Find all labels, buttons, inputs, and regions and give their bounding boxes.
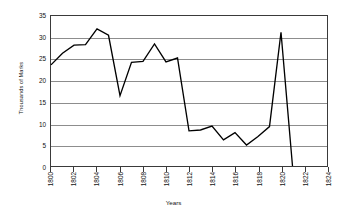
x-tick-label: 1818 <box>255 172 262 186</box>
x-tick-label: 1822 <box>301 172 308 186</box>
y-axis-title: Thousands of Marks <box>14 0 28 176</box>
y-tick-label: 35 <box>39 12 46 19</box>
line-path <box>51 29 293 166</box>
x-axis-title: Years <box>0 199 347 206</box>
x-tick-label: 1800 <box>47 172 54 186</box>
plot-area <box>50 15 328 167</box>
x-tick-label: 1816 <box>232 172 239 186</box>
y-tick-label: 30 <box>39 33 46 40</box>
x-tick-label: 1808 <box>139 172 146 186</box>
x-tick-label: 1824 <box>325 172 332 186</box>
x-axis-tick-labels: 1800180218041806180818101812181418161818… <box>50 172 328 196</box>
data-series-line <box>51 16 327 166</box>
x-tick-label: 1806 <box>116 172 123 186</box>
x-tick-label: 1810 <box>162 172 169 186</box>
y-axis-tick-labels: 05101520253035 <box>30 0 46 176</box>
x-tick-label: 1814 <box>209 172 216 186</box>
x-tick-label: 1802 <box>70 172 77 186</box>
y-tick-label: 20 <box>39 77 46 84</box>
y-tick-label: 15 <box>39 98 46 105</box>
x-tick-label: 1812 <box>186 172 193 186</box>
y-tick-label: 0 <box>42 164 46 171</box>
y-axis-title-text: Thousands of Marks <box>18 62 24 114</box>
x-tick-label: 1804 <box>93 172 100 186</box>
y-tick-label: 10 <box>39 120 46 127</box>
x-axis-title-text: Years <box>166 199 182 206</box>
y-tick-label: 25 <box>39 55 46 62</box>
x-tick-label: 1820 <box>278 172 285 186</box>
y-tick-label: 5 <box>42 142 46 149</box>
chart-figure: Thousands of Marks 05101520253035 180018… <box>0 0 347 217</box>
